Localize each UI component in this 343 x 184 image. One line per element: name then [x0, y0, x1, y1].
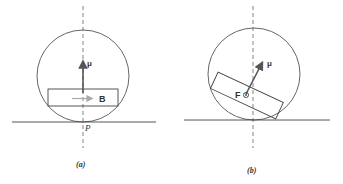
panel-a: μ B P (a) [12, 6, 156, 169]
mu-label: μ [87, 59, 92, 68]
caption-b: (b) [247, 166, 257, 175]
point-label-p: P [84, 123, 91, 133]
panel-b: μ F (b) [184, 6, 330, 175]
body-label-f: F [235, 90, 241, 100]
caption-a: (a) [76, 160, 86, 169]
figure-canvas: μ B P (a) μ F (b) [0, 0, 343, 184]
body-label-b: B [99, 94, 106, 104]
moment-arrow [246, 65, 261, 94]
mu-label: μ [267, 59, 272, 68]
